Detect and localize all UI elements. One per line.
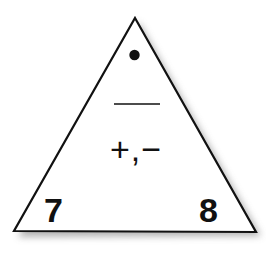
operations-label: +,− (98, 132, 174, 166)
bottom-right-number: 8 (199, 193, 218, 227)
triangle-graphic (0, 0, 266, 253)
bottom-left-number: 7 (44, 193, 63, 227)
top-dot-unknown (129, 50, 139, 60)
fact-family-triangle-card: +,− 7 8 (0, 0, 266, 253)
